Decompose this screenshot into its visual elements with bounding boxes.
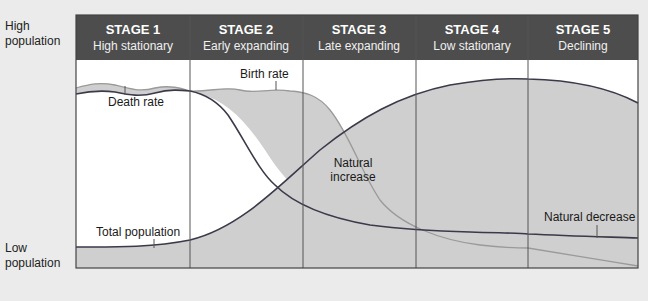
stage-2-subtitle: Early expanding xyxy=(203,39,289,53)
total-population-label: Total population xyxy=(96,225,180,239)
death-rate-label: Death rate xyxy=(108,95,164,109)
natural-decrease-label: Natural decrease xyxy=(544,210,636,224)
natural-increase-label-line2: increase xyxy=(330,170,376,184)
stage-2-title: STAGE 2 xyxy=(219,22,274,37)
stage-1-subtitle: High stationary xyxy=(93,39,173,53)
stage-4-title: STAGE 4 xyxy=(445,22,500,37)
stage-5-subtitle: Declining xyxy=(558,39,607,53)
stage-4-subtitle: Low stationary xyxy=(433,39,510,53)
stage-1-title: STAGE 1 xyxy=(106,22,161,37)
stage-3-subtitle: Late expanding xyxy=(318,39,400,53)
birth-rate-label: Birth rate xyxy=(240,67,289,81)
stage-5-title: STAGE 5 xyxy=(556,22,611,37)
stage-3-title: STAGE 3 xyxy=(332,22,387,37)
natural-increase-label-line1: Natural xyxy=(334,156,373,170)
demographic-transition-chart: STAGE 1 High stationary STAGE 2 Early ex… xyxy=(0,0,648,301)
